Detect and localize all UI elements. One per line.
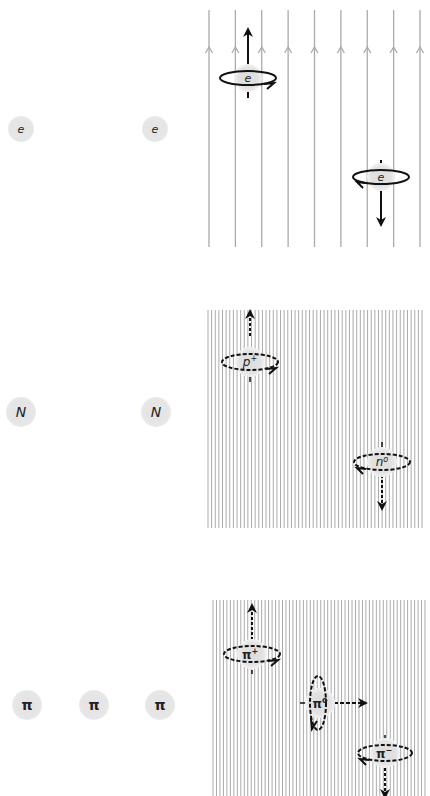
rotation-arrow-icon	[357, 468, 366, 474]
field-diagrams: e e p+ no π+ πo	[0, 0, 430, 796]
particle-label: e	[378, 171, 385, 184]
rotation-arrow-icon	[360, 759, 369, 765]
electron-field-lines	[206, 10, 424, 247]
nucleon-field-lines	[208, 310, 422, 528]
electron-spin-down: e	[353, 160, 409, 222]
neutron-spin-down: no	[354, 442, 410, 506]
rotation-arrow-icon	[266, 368, 276, 374]
rotation-arrow-icon	[268, 660, 278, 666]
particle-label: e	[245, 72, 252, 85]
electron-spin-up: e	[220, 32, 276, 98]
rotation-arrow-icon	[264, 83, 274, 89]
rotation-arrow-icon	[357, 182, 366, 188]
